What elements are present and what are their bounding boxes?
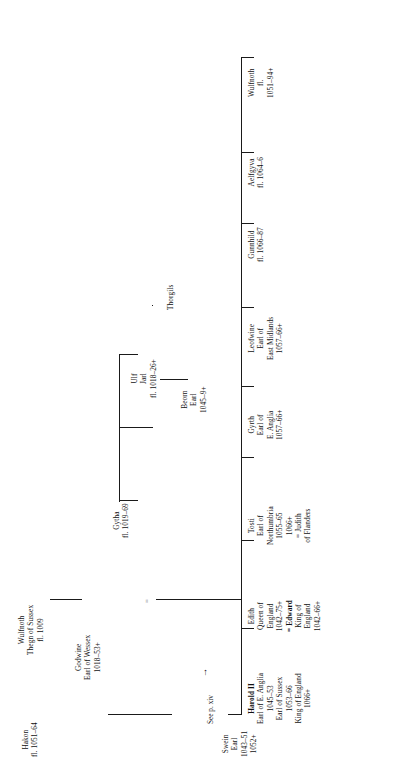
person-wulfnoth-thegn-line-0: Wulfnoth	[17, 605, 26, 655]
line-stub-tosti	[241, 457, 254, 458]
person-swein-line-3: 1052+	[249, 731, 258, 757]
person-gyrth-line-3: 1057–66+	[275, 410, 284, 440]
person-ulf-line-1: Jarl	[139, 359, 148, 398]
person-ulf-line-0: Ulf	[130, 359, 139, 398]
person-harold-ii-line-6: 1066+	[303, 673, 312, 724]
person-gyrth-line-0: Gyrth	[247, 410, 256, 440]
person-aelfgyva-line-0: Aelfgyva	[247, 157, 256, 188]
line-stub-gytha	[119, 500, 138, 501]
person-hakon-line-0: Hakon	[21, 722, 30, 757]
person-leofwine-line-0: Leofwine	[247, 317, 256, 360]
person-wulfnoth-son-line-0: Wulfnoth	[247, 68, 256, 98]
person-edith-line-4: = Edward	[285, 600, 294, 632]
person-swein-line-1: Earl	[230, 731, 239, 757]
person-gytha-line-0: Gytha	[112, 503, 121, 538]
person-edith-line-6: England	[303, 600, 312, 632]
person-gyrth-line-2: E. Anglia	[266, 410, 275, 440]
person-leofwine[interactable]: Leofwine Earl of East Midlands 1057–66+	[247, 317, 285, 360]
line-stub-leofwine	[241, 307, 254, 308]
person-godwine[interactable]: Godwine Earl of Wessex 1018–53+	[74, 635, 102, 680]
person-harold-ii-line-4: 1053–66	[285, 673, 294, 724]
line-thorgils-to-bar	[119, 427, 153, 428]
person-wulfnoth-son-line-1: fl.	[256, 68, 265, 98]
person-swein[interactable]: Swein Earl 1043–51 1052+	[221, 731, 259, 757]
person-edith-line-2: England	[266, 600, 275, 632]
person-gytha[interactable]: Gytha fl. 1019–69	[112, 503, 131, 538]
person-leofwine-line-2: East Midlands	[266, 317, 275, 360]
person-edith-line-1: Queen of	[256, 600, 265, 632]
line-stub-aelfgyva	[241, 152, 254, 153]
person-tosti-line-6: of Flanders	[303, 506, 312, 545]
person-beorn-line-1: Earl	[189, 386, 198, 413]
person-gunnhild-line-1: fl. 1066–87	[256, 227, 265, 262]
person-swein-line-0: Swein	[221, 731, 230, 757]
person-tosti[interactable]: Tosti Earl of Northumbria 1055–65 1066+ …	[247, 506, 313, 545]
person-hakon-line-1: fl. 1051–64	[30, 722, 39, 757]
person-aelfgyva[interactable]: Aelfgyva fl. 1064–6	[247, 157, 266, 188]
person-tosti-line-3: 1055–65	[275, 506, 284, 545]
person-tosti-line-4: 1066+	[285, 506, 294, 545]
person-harold-ii-line-5: King of England	[294, 673, 303, 724]
person-hakon[interactable]: Hakon fl. 1051–64	[21, 722, 40, 757]
line-stub-gyrth	[241, 386, 254, 387]
person-edith-line-3: 1042–75+	[275, 600, 284, 632]
person-gunnhild-line-0: Gunnhild	[247, 227, 256, 262]
person-edith-line-7: 1042–66+	[313, 600, 322, 632]
person-harold-ii-line-2: 1045–53	[266, 673, 275, 724]
line-stub-wulfnoth-son	[241, 57, 254, 58]
line-thorgils-stem	[152, 305, 153, 306]
person-gunnhild[interactable]: Gunnhild fl. 1066–87	[247, 227, 266, 262]
person-wulfnoth-thegn-line-2: fl. 1009	[36, 605, 45, 655]
person-tosti-line-0: Tosti	[247, 506, 256, 545]
person-edith-line-5: King of	[294, 600, 303, 632]
person-gyrth[interactable]: Gyrth Earl of E. Anglia 1057–66+	[247, 410, 285, 440]
person-wulfnoth-son-line-2: 1051–94+	[266, 68, 275, 98]
person-godwine-line-0: Godwine	[74, 635, 83, 680]
person-wulfnoth-thegn[interactable]: Wulfnoth Thegn of Sussex fl. 1009	[17, 605, 45, 655]
line-stub-swein	[228, 714, 242, 715]
person-tosti-line-5: = Judith	[294, 506, 303, 545]
line-ulf-to-beorn	[160, 379, 188, 380]
line-stub-gunnhild	[241, 223, 254, 224]
person-aelfgyva-line-1: fl. 1064–6	[256, 157, 265, 188]
person-tosti-line-1: Earl of	[256, 506, 265, 545]
person-edith-line-0: Edith	[247, 600, 256, 632]
person-tosti-line-2: Northumbria	[266, 506, 275, 545]
see-page-note: See p. xiv	[206, 695, 215, 724]
line-wulfnoth-to-godwine	[50, 599, 82, 600]
person-edith[interactable]: Edith Queen of England 1042–75+ = Edward…	[247, 600, 322, 632]
person-beorn-line-0: Beorn	[180, 386, 189, 413]
person-ulf-line-2: fl. 1018–26+	[149, 359, 158, 398]
person-wulfnoth-thegn-line-1: Thegn of Sussex	[26, 605, 35, 655]
person-harold-ii[interactable]: Harold II Earl of E. Anglia 1045–53 Earl…	[247, 673, 313, 724]
person-harold-ii-line-3: Earl of Sussex	[275, 673, 284, 724]
person-harold-ii-line-0: Harold II	[247, 673, 256, 724]
person-thorgils[interactable]: Thorgils	[166, 285, 175, 310]
genealogy-chart: Thorgils Ulf Jarl fl. 1018–26+ Gytha fl.…	[0, 0, 414, 761]
person-beorn-line-2: 1045–9+	[199, 386, 208, 413]
person-godwine-line-1: Earl of Wessex	[83, 635, 92, 680]
line-swein-to-hakon	[108, 714, 172, 715]
person-ulf[interactable]: Ulf Jarl fl. 1018–26+	[130, 359, 158, 398]
person-harold-ii-line-1: Earl of E. Anglia	[256, 673, 265, 724]
person-wulfnoth-son[interactable]: Wulfnoth fl. 1051–94+	[247, 68, 275, 98]
person-leofwine-line-3: 1057–66+	[275, 317, 284, 360]
person-beorn[interactable]: Beorn Earl 1045–9+	[180, 386, 208, 413]
person-leofwine-line-1: Earl of	[256, 317, 265, 360]
arrow-icon: →	[199, 668, 209, 677]
see-page-note-text: See p. xiv	[206, 695, 215, 724]
line-godwine-gytha-marriage	[156, 599, 241, 600]
person-gyrth-line-1: Earl of	[256, 410, 265, 440]
person-godwine-line-2: 1018–53+	[93, 635, 102, 680]
person-gytha-line-1: fl. 1019–69	[121, 503, 130, 538]
line-stub-ulf	[119, 354, 138, 355]
marriage-symbol-godwine-gytha: =	[143, 599, 151, 603]
person-swein-line-2: 1043–51	[240, 731, 249, 757]
person-thorgils-line-0: Thorgils	[166, 285, 175, 310]
